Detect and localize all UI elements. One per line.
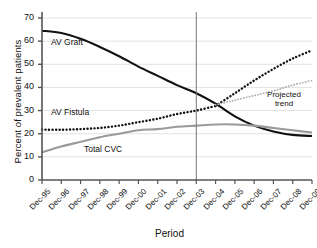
y-tick-label-50: 50	[8, 58, 34, 68]
series-label-av-fistula: AV Fistula	[51, 107, 89, 117]
y-tick-label-0: 0	[8, 174, 34, 184]
x-axis-title-text: Period	[155, 228, 184, 239]
series-label-total-cvc: Total CVC	[84, 144, 122, 154]
y-tick-label-10: 10	[8, 151, 34, 161]
chart-container: Percent of prevalent patients Period 706…	[0, 0, 317, 248]
projected-trend-line2: trend	[275, 99, 293, 108]
y-tick-label-20: 20	[8, 128, 34, 138]
projected-trend-line1: Projected	[267, 90, 301, 99]
series-label-projected-trend: Projected trend	[253, 90, 315, 108]
y-tick-label-30: 30	[8, 105, 34, 115]
y-tick-label-70: 70	[8, 12, 34, 22]
x-axis-title: Period	[0, 228, 317, 239]
y-tick-label-40: 40	[8, 81, 34, 91]
y-tick-label-60: 60	[8, 35, 34, 45]
series-line-total-cvc	[42, 124, 312, 152]
series-label-av-graft: AV Graft	[51, 37, 83, 47]
